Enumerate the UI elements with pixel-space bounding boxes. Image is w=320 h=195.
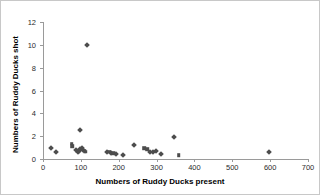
- scatter-chart-figure: 0100200300400500600700 024681012 Numbers…: [0, 0, 320, 195]
- y-axis-tick-label: 2: [32, 132, 36, 141]
- y-axis-tick-label: 6: [32, 86, 36, 95]
- x-axis-title: Numbers of Ruddy Ducks present: [1, 177, 319, 186]
- x-axis-tick: [194, 159, 195, 162]
- x-axis-tick-label: 200: [112, 163, 125, 172]
- x-axis-tick-label: 500: [226, 163, 239, 172]
- x-axis-tick-label: 300: [150, 163, 163, 172]
- data-point: [70, 145, 74, 149]
- x-axis-tick: [232, 159, 233, 162]
- x-axis-tick: [157, 159, 158, 162]
- x-axis-tick-label: 100: [75, 163, 88, 172]
- x-axis-line: [43, 159, 309, 160]
- x-axis-tick-label: 0: [41, 163, 45, 172]
- x-axis-tick: [308, 159, 309, 162]
- y-axis-title: Numbers of Ruddy Ducks shot: [11, 30, 20, 160]
- data-point: [177, 153, 181, 157]
- x-axis-tick: [119, 159, 120, 162]
- x-axis-tick: [81, 159, 82, 162]
- data-point: [84, 150, 88, 154]
- x-axis-tick: [270, 159, 271, 162]
- y-axis-tick: [40, 159, 43, 160]
- plot-area: [43, 22, 308, 159]
- x-axis-tick-label: 600: [264, 163, 277, 172]
- x-axis-tick-label: 700: [302, 163, 315, 172]
- y-axis-tick-label: 10: [28, 40, 36, 49]
- y-axis-tick-label: 8: [32, 63, 36, 72]
- x-axis-tick: [43, 159, 44, 162]
- y-axis-tick-label: 4: [32, 109, 36, 118]
- x-axis-tick-label: 400: [188, 163, 201, 172]
- y-axis-tick-label: 0: [32, 155, 36, 164]
- y-axis-tick-label: 12: [28, 18, 36, 27]
